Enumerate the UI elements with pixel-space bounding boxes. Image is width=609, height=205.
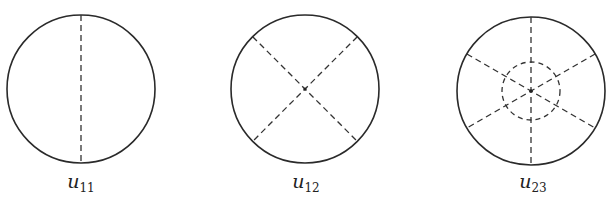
label-symbol: u — [67, 170, 79, 192]
center-point — [303, 87, 306, 90]
label-symbol: u — [519, 170, 531, 192]
panel-u11 — [7, 15, 155, 163]
panel-u23 — [457, 17, 605, 165]
center-point — [529, 89, 533, 93]
label-u12: u12 — [292, 170, 320, 195]
panel-u12 — [231, 15, 379, 163]
label-subscript: 12 — [304, 181, 319, 195]
label-symbol: u — [292, 170, 304, 192]
label-subscript: 23 — [531, 181, 546, 195]
label-subscript: 11 — [79, 181, 94, 195]
label-u23: u23 — [519, 170, 547, 195]
label-u11: u11 — [67, 170, 95, 195]
